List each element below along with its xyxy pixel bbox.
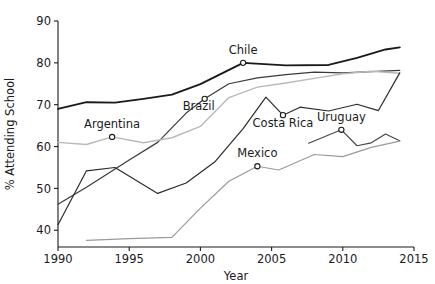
- line-chart: 908070605040 199019952000200520102015 Ch…: [0, 0, 435, 284]
- x-tick-label: 2010: [328, 252, 357, 266]
- series-label-argentina: Argentina: [84, 117, 140, 131]
- y-axis-ticks: 908070605040: [36, 14, 58, 237]
- x-tick-label: 2005: [257, 252, 286, 266]
- y-tick-label: 40: [36, 223, 51, 237]
- y-tick-label: 50: [36, 182, 51, 196]
- y-tick-label: 80: [36, 56, 51, 70]
- series-lines: [58, 47, 400, 240]
- y-tick-label: 90: [36, 14, 51, 28]
- x-tick-label: 1995: [115, 252, 144, 266]
- y-tick-label: 70: [36, 98, 51, 112]
- chart-container: 908070605040 199019952000200520102015 Ch…: [0, 0, 435, 284]
- marker-argentina: [110, 134, 115, 139]
- series-label-brazil: Brazil: [183, 99, 215, 113]
- marker-uruguay: [339, 127, 344, 132]
- series-label-chile: Chile: [229, 43, 258, 57]
- y-tick-label: 60: [36, 140, 51, 154]
- series-label-uruguay: Uruguay: [317, 110, 366, 124]
- marker-mexico: [255, 164, 260, 169]
- series-line-costa-rica: [58, 73, 400, 225]
- series-label-mexico: Mexico: [237, 146, 277, 160]
- x-axis-ticks: 199019952000200520102015: [43, 247, 428, 266]
- series-line-argentina: [58, 71, 400, 144]
- x-axis-title: Year: [223, 269, 249, 283]
- x-tick-label: 2000: [186, 252, 215, 266]
- series-label-costa-rica: Costa Rica: [253, 116, 314, 130]
- x-tick-label: 1990: [43, 252, 72, 266]
- series-markers: [110, 60, 344, 169]
- series-line-uruguay: [309, 130, 400, 146]
- x-tick-label: 2015: [399, 252, 428, 266]
- marker-chile: [241, 60, 246, 65]
- y-axis-title: % Attending School: [3, 78, 17, 191]
